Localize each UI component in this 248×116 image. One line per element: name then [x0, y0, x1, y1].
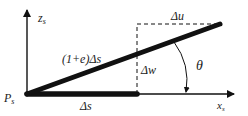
deformed-element [27, 24, 220, 94]
original-length-label: Δs [79, 99, 92, 113]
z-axis-label: zs [37, 11, 46, 26]
deformation-diagram: Ps zs xs (1+e)Δs Δs Δu Δw θ [0, 0, 248, 116]
projection-dashed-box [137, 24, 220, 94]
angle-theta-arc [174, 42, 187, 92]
x-axis-label: xs [216, 99, 225, 113]
angle-theta-label: θ [196, 58, 203, 73]
deformed-length-label: (1+e)Δs [62, 52, 101, 66]
origin-label: Ps [3, 91, 14, 106]
delta-w-label: Δw [140, 63, 156, 77]
delta-u-label: Δu [170, 9, 184, 23]
